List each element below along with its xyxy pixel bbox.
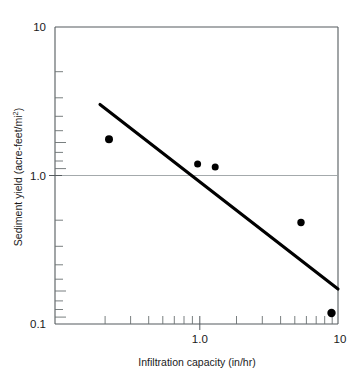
- y-axis-title-tail: ): [12, 108, 24, 112]
- data-point: [105, 135, 113, 143]
- y-tick-label-0point1: 0.1: [30, 318, 46, 330]
- data-point: [212, 164, 219, 171]
- data-point: [327, 309, 335, 317]
- x-axis-title: Infiltration capacity (in/hr): [138, 356, 255, 368]
- y-axis-title-base: Sediment yield (acre-feet/mi: [12, 115, 24, 246]
- chart-svg: 10 1.0 0.1 1.0 10 Infiltration capacity …: [0, 0, 362, 383]
- svg-text:Sediment yield (acre-feet/mi2): Sediment yield (acre-feet/mi2): [11, 108, 24, 246]
- data-point: [194, 161, 201, 168]
- chart-background: [0, 0, 362, 383]
- x-tick-label-1: 1.0: [192, 333, 208, 345]
- data-point: [297, 219, 304, 226]
- chart-figure: 10 1.0 0.1 1.0 10 Infiltration capacity …: [0, 0, 362, 383]
- x-tick-label-10: 10: [334, 333, 347, 345]
- y-axis-title: Sediment yield (acre-feet/mi2): [11, 108, 24, 246]
- y-tick-label-10: 10: [33, 21, 46, 33]
- y-tick-label-1: 1.0: [30, 170, 46, 182]
